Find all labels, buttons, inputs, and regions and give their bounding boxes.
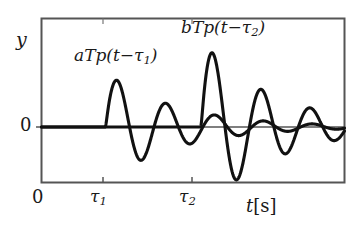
annotation-wavelet-b: bTp(t−τ2) xyxy=(181,19,265,39)
annotation-a-suffix: ) xyxy=(151,45,158,65)
xtick-label-tau2: τ2 xyxy=(179,188,196,208)
waveform-figure: y 0 0 τ1 τ2 t[s] aTp(t−τ1) bTp(t−τ2) xyxy=(0,0,364,231)
tau2-subscript: 2 xyxy=(188,194,195,208)
annotation-b-suffix: ) xyxy=(259,17,266,37)
y-axis-label: y xyxy=(16,30,27,49)
x-origin-tick-label: 0 xyxy=(32,188,43,206)
y-zero-tick-label: 0 xyxy=(20,116,31,134)
xtick-label-tau1: τ1 xyxy=(90,188,107,208)
annotation-wavelet-a: aTp(t−τ1) xyxy=(74,47,157,67)
x-axis-label: t[s] xyxy=(246,197,277,215)
tau1-subscript: 1 xyxy=(99,194,106,208)
annotation-b-subscript: 2 xyxy=(251,25,258,39)
annotation-b-prefix: bTp(t−τ xyxy=(181,17,251,37)
tau1-symbol: τ xyxy=(90,186,99,206)
x-axis-unit: [s] xyxy=(253,195,276,216)
annotation-a-prefix: aTp(t−τ xyxy=(74,45,143,65)
plot-frame xyxy=(42,19,345,183)
annotation-a-subscript: 1 xyxy=(143,53,150,67)
tau2-symbol: τ xyxy=(179,186,188,206)
